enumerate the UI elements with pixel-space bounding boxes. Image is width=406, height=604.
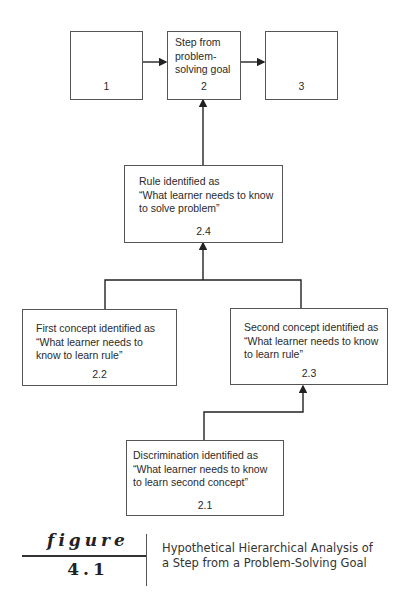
figure-caption: Hypothetical Hierarchical Analysis of a … [162,541,373,571]
box-rule-2-4: Rule identified as “What learner needs t… [124,165,283,243]
box-step-3: 3 [265,31,338,100]
figure-divider [146,534,147,586]
box-number: 2.3 [231,367,387,379]
figure-rule [22,555,146,557]
figure-word: figure [38,530,138,550]
box-discrimination-2-1: Discrimination identified as “What learn… [126,440,284,516]
box-number: 2.1 [127,499,283,511]
box-step-1: 1 [70,31,143,100]
figure-number: 4.1 [38,559,138,579]
box-label: Discrimination identified as “What learn… [133,449,267,490]
box-label: Second concept identified as “What learn… [244,321,378,362]
box-number: 2 [168,80,240,92]
box-number: 1 [71,80,142,92]
box-first-concept-2-2: First concept identified as “What learne… [22,309,177,386]
box-second-concept-2-3: Second concept identified as “What learn… [230,308,388,385]
box-number: 2.2 [23,368,176,380]
box-number: 2.4 [125,225,282,237]
box-number: 3 [266,80,337,92]
box-label: First concept identified as “What learne… [36,322,155,363]
box-label: Step from problem- solving goal [175,36,230,77]
box-step-2: Step from problem- solving goal 2 [167,31,241,100]
box-label: Rule identified as “What learner needs t… [139,175,273,216]
